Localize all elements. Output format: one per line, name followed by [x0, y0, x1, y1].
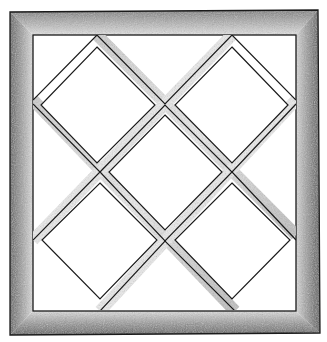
quilt-block-drawing — [0, 0, 327, 342]
